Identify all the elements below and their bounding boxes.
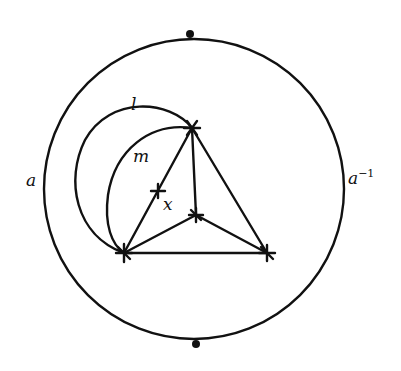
vertex-star-bottom-right bbox=[259, 245, 275, 261]
vertex-star-bottom-left bbox=[116, 244, 132, 262]
diagram-canvas bbox=[0, 0, 401, 371]
label-a-left: a bbox=[26, 172, 36, 189]
label-a-inverse-base: a bbox=[348, 168, 358, 188]
boundary-dot-bottom bbox=[192, 340, 200, 348]
label-a-inverse: a−1 bbox=[348, 168, 374, 187]
vertex-star-center bbox=[189, 208, 203, 222]
boundary-dot-top bbox=[186, 30, 194, 38]
label-a-inverse-exp: −1 bbox=[358, 167, 374, 180]
arc-m bbox=[107, 127, 192, 253]
label-l: l bbox=[131, 96, 136, 113]
edge-top-center bbox=[192, 128, 196, 215]
label-m: m bbox=[133, 148, 149, 165]
label-x: x bbox=[163, 196, 173, 213]
